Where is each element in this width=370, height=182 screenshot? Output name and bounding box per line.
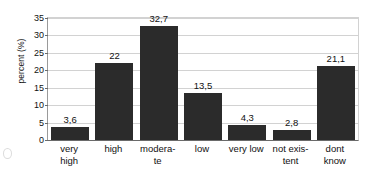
x-axis-category-label: very low [224,143,268,155]
y-axis-tick-label: 20 [0,65,44,75]
x-axis-label-line: te [136,155,180,167]
x-axis-label-line: know [313,155,357,167]
bar-slot: 13,5 [181,18,225,140]
x-axis-label-line: high [47,155,91,167]
bar[interactable] [228,125,266,140]
bar[interactable] [273,130,311,140]
y-axis-tick-label: 5 [0,118,44,128]
bar-value-label: 13,5 [194,80,213,91]
x-axis-category-label: modera-te [136,143,180,166]
x-axis-label-line: modera- [136,143,180,155]
y-axis-tick-label: 25 [0,48,44,58]
bar-value-label: 32,7 [149,13,168,24]
x-axis-label-line: not exis- [268,143,312,155]
bar-value-label: 22 [109,50,120,61]
x-axis-category-label: not exis-tent [268,143,312,166]
bar-value-label: 3,6 [64,114,77,125]
bar[interactable] [95,63,133,140]
x-axis-category-label: high [91,143,135,155]
x-axis-category-label: veryhigh [47,143,91,166]
bar[interactable] [184,93,222,140]
scan-artifact [3,148,12,159]
bar[interactable] [140,26,178,140]
x-axis-label-line: dont [313,143,357,155]
bar-value-label: 4,3 [241,112,254,123]
x-axis-label-line: tent [268,155,312,167]
bar-value-label: 21,1 [327,53,346,64]
y-axis-tick-label: 30 [0,30,44,40]
bar[interactable] [51,127,89,140]
y-axis-tick-label: 15 [0,83,44,93]
y-axis-tick-label: 35 [0,13,44,23]
x-axis-label-line: very [47,143,91,155]
plot-area: 05101520253035 3,62232,713,54,32,821,1 [47,17,359,141]
bar-slot: 2,8 [269,18,313,140]
x-axis-label-line: high [91,143,135,155]
x-axis-labels: veryhighhighmodera-telowvery lownot exis… [47,143,357,181]
x-axis-category-label: low [180,143,224,155]
y-axis-title: percent (%) [16,14,26,108]
bar-chart-figure: percent (%) 05101520253035 3,62232,713,5… [0,0,370,182]
x-axis-label-line: low [180,143,224,155]
bar-slot: 32,7 [137,18,181,140]
y-axis-tick-mark [45,140,48,141]
bar[interactable] [317,66,355,140]
bar-slot: 21,1 [314,18,358,140]
bar-slot: 4,3 [225,18,269,140]
x-axis-label-line: very low [224,143,268,155]
bar-slot: 22 [92,18,136,140]
y-axis-tick-label: 0 [0,135,44,145]
bar-slot: 3,6 [48,18,92,140]
y-axis-tick-label: 10 [0,100,44,110]
bar-value-label: 2,8 [285,117,298,128]
bars-layer: 3,62232,713,54,32,821,1 [48,18,358,140]
x-axis-category-label: dontknow [313,143,357,166]
